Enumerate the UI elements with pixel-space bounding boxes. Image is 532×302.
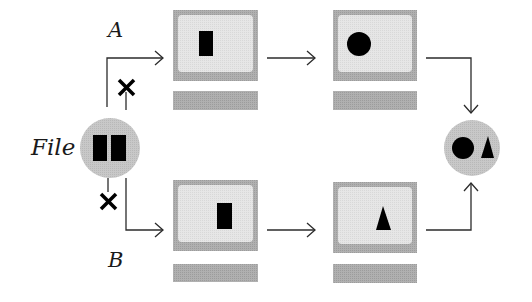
connector-b2-to-result	[426, 183, 478, 230]
diagram-canvas	[0, 0, 532, 302]
file-node	[80, 118, 140, 178]
monitor-screen	[338, 187, 412, 244]
monitor-base	[333, 91, 417, 110]
x-mark-icon	[101, 194, 116, 209]
monitor-base	[173, 264, 258, 282]
rectangle-block-icon	[199, 31, 213, 56]
monitor-base	[333, 264, 417, 283]
monitor-b1	[173, 180, 258, 282]
monitor-screen	[178, 15, 253, 72]
connector-file-to-b1	[126, 178, 163, 237]
circle-shape-icon	[452, 137, 474, 159]
blocked-branch-b	[101, 178, 116, 209]
file-block-left-icon	[93, 135, 107, 161]
file-label: File	[31, 136, 75, 159]
connector-file-to-a1	[107, 51, 163, 107]
path-b-label: B	[108, 250, 123, 271]
rectangle-block-icon	[217, 203, 232, 229]
monitor-b2	[333, 182, 417, 283]
file-block-right-icon	[111, 135, 126, 161]
connector-b1-to-b2	[267, 223, 315, 237]
circle-shape-icon	[347, 32, 371, 56]
blocked-branch-a	[119, 80, 134, 110]
monitor-a2	[333, 10, 417, 110]
connector-a2-to-result	[426, 58, 478, 113]
monitor-base	[173, 91, 258, 110]
monitor-screen	[178, 185, 253, 242]
parallel-file-processing-diagram: A B File	[0, 0, 532, 302]
file-circle	[80, 118, 140, 178]
path-a-label: A	[108, 20, 123, 41]
result-node	[444, 120, 500, 176]
monitor-a1	[173, 10, 258, 110]
connector-a1-to-a2	[267, 51, 315, 65]
